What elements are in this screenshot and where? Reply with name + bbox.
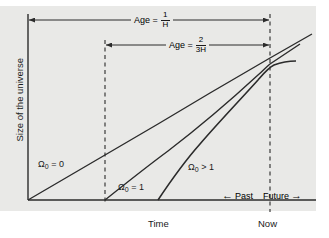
age-23h-text: Age = (169, 40, 193, 50)
age-23h-fraction: 2 3H (196, 36, 206, 54)
omega-value: 1 (209, 162, 214, 172)
curve-omega-gt-1 (158, 61, 296, 200)
y-axis-label: Size of the universe (15, 40, 25, 160)
now-label: Now (258, 219, 277, 229)
x-axis-label: Time (148, 219, 169, 229)
omega-relation: > (201, 162, 206, 172)
past-label: Past (235, 191, 253, 201)
curve-label-omega-1: Ω0 = 1 (118, 183, 144, 193)
curve-label-omega-0: Ω0 = 0 (38, 160, 64, 170)
arrow-right-icon: → (291, 190, 302, 201)
future-label: Future (263, 191, 289, 201)
omega-subscript: 0 (125, 186, 129, 193)
fraction-numerator: 2 (199, 36, 203, 45)
age-1h-fraction: 1 H (161, 11, 170, 29)
age-1h-annotation: Age = 1 H (131, 11, 173, 29)
omega-value: 0 (59, 159, 64, 169)
omega-symbol: Ω (118, 182, 125, 192)
omega-symbol: Ω (188, 162, 195, 172)
omega-value: 1 (139, 182, 144, 192)
curve-omega-0 (28, 34, 312, 200)
age-23h-annotation: Age = 2 3H (166, 36, 209, 54)
age-1h-text: Age = (134, 15, 158, 25)
omega-symbol: Ω (38, 159, 45, 169)
omega-subscript: 0 (195, 166, 199, 173)
omega-subscript: 0 (45, 163, 49, 170)
chart-canvas (0, 0, 329, 238)
arrow-left-icon: ← (222, 190, 233, 201)
omega-relation: = (51, 159, 56, 169)
curve-label-omega-gt-1: Ω0 > 1 (188, 163, 214, 173)
universe-expansion-figure: Size of the universe Time Now Ω0 = 0 Ω0 … (0, 0, 329, 238)
past-future-annotation: ← Past Future → (222, 190, 302, 201)
fraction-denominator: H (162, 21, 168, 30)
fraction-numerator: 1 (163, 11, 167, 20)
fraction-denominator: 3H (196, 46, 206, 55)
omega-relation: = (131, 182, 136, 192)
